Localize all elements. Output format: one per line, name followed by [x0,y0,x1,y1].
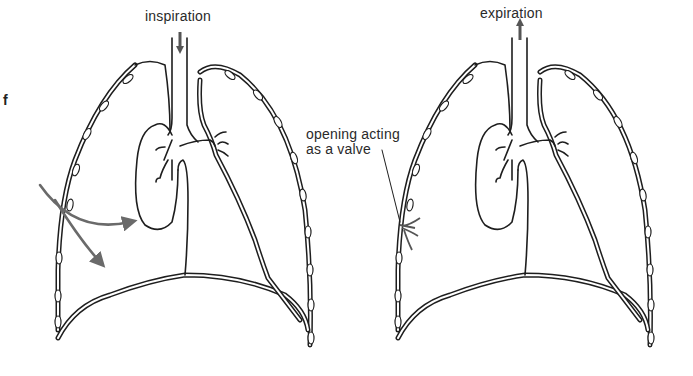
expiration-diagram [382,18,654,345]
diagram-canvas [0,0,693,376]
valve-pointer-line [382,150,400,222]
inspiration-diagram [40,32,314,345]
air-entry-arrow [40,185,130,225]
